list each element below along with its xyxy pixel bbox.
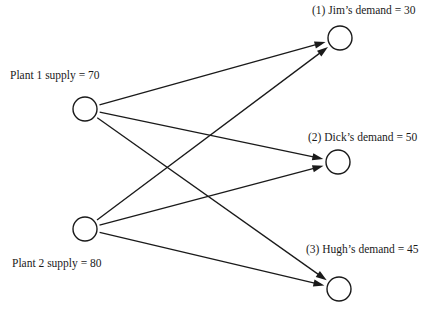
edge-line [97, 52, 321, 220]
jim-demand-label: (1) Jim’s demand = 30 [312, 5, 416, 17]
arrowhead-icon [312, 165, 324, 172]
plant-1-supply-label: Plant 1 supply = 70 [10, 70, 100, 82]
edge-line [100, 168, 315, 225]
arrowhead-icon [317, 47, 328, 56]
edge-plant1-to-hugh [97, 118, 327, 281]
node-plant1 [73, 97, 97, 121]
edge-plant1-to-jim [99, 42, 325, 105]
plant-2-supply-label: Plant 2 supply = 80 [12, 258, 102, 270]
dick-demand-label: (2) Dick’s demand = 50 [308, 132, 417, 144]
arrowhead-icon [316, 271, 327, 280]
arrowhead-icon [312, 153, 324, 160]
node-dick [326, 150, 350, 174]
hugh-demand-label: (3) Hugh’s demand = 45 [306, 244, 419, 256]
node-jim [328, 26, 352, 50]
arrowhead-icon [313, 280, 325, 287]
node-plant2 [73, 217, 97, 241]
edge-plant2-to-dick [100, 165, 324, 225]
edge-line [100, 232, 316, 283]
edge-line [99, 44, 316, 105]
edge-plant1-to-dick [100, 112, 324, 160]
edges-layer [97, 42, 328, 287]
arrowhead-icon [314, 42, 326, 49]
node-hugh [327, 277, 351, 301]
edge-plant2-to-hugh [100, 232, 325, 286]
edge-line [100, 112, 315, 157]
